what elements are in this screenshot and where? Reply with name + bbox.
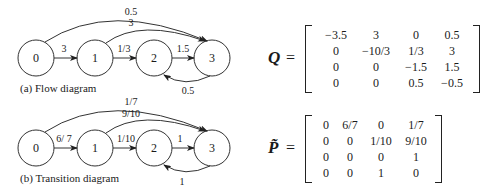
q-cell: −3.5 [317,27,355,43]
q-matrix-label: Q [268,48,280,68]
p-matrix: 0 6/7 0 1/7 0 0 1/10 9/10 0 0 0 1 0 0 1 … [305,115,442,183]
q-matrix-row: 0 −10/3 1/3 3 [317,43,469,59]
flow-edge-label-1-2: 1/3 [118,43,131,54]
q-cell: −1.5 [397,59,435,75]
q-cell: 0 [317,43,355,59]
p-cell: 1/7 [399,117,433,133]
p-cell: 0 [337,133,363,149]
q-cell: 0.5 [397,75,435,91]
q-matrix-row: 0 0 −1.5 1.5 [317,59,469,75]
q-cell: −10/3 [355,43,397,59]
flow-edge-label-1-3: 3 [129,17,134,28]
p-cell: 0 [315,165,337,181]
q-matrix-row: −3.5 3 0 0.5 [317,27,469,43]
flow-node-3-label: 3 [209,51,215,65]
p-cell: 0 [399,165,433,181]
p-cell: 1 [399,149,433,165]
trans-edge-label-2-3: 1 [178,133,183,144]
q-cell: 0 [397,27,435,43]
q-cell: 1.5 [435,59,469,75]
p-cell: 0 [315,149,337,165]
q-matrix-left-bracket [305,25,312,93]
flow-edge-label-0-3: 0.5 [125,6,138,17]
p-cell: 0 [337,149,363,165]
trans-edge-label-0-3: 1/7 [125,96,138,107]
q-cell: 3 [355,27,397,43]
trans-edge-label-1-3: 9/10 [122,108,140,119]
p-cell: 1 [363,165,399,181]
p-matrix-right-bracket [435,115,442,183]
q-matrix-row: 0 0 0.5 −0.5 [317,75,469,91]
p-matrix-row: 0 0 0 1 [315,149,433,165]
flow-edge-label-3-2: 0.5 [182,85,195,96]
flow-edge-3-2 [164,75,210,82]
q-cell: 1/3 [397,43,435,59]
p-matrix-row: 0 6/7 0 1/7 [315,117,433,133]
p-cell: 0 [315,133,337,149]
q-cell: 0 [355,75,397,91]
flow-node-2-label: 2 [151,51,157,65]
flow-edge-label-2-3: 1.5 [177,43,190,54]
p-cell: 9/10 [399,133,433,149]
trans-node-2-label: 2 [151,141,157,155]
p-cell: 1/10 [363,133,399,149]
p-matrix-row: 0 0 1/10 9/10 [315,133,433,149]
q-matrix-table: −3.5 3 0 0.5 0 −10/3 1/3 3 0 0 −1.5 1.5 … [317,27,469,91]
transition-diagram-caption: (b) Transition diagram [20,172,119,185]
q-matrix-right-bracket [473,25,480,93]
p-cell: 6/7 [337,117,363,133]
trans-node-0-label: 0 [33,141,39,155]
q-cell: 0 [317,75,355,91]
q-cell: −0.5 [435,75,469,91]
q-cell: 0 [355,59,397,75]
flow-diagram-caption: (a) Flow diagram [20,82,97,95]
trans-edge-1-3 [106,120,205,133]
trans-node-3-label: 3 [209,141,215,155]
p-cell: 0 [315,117,337,133]
p-matrix-row: 0 0 1 0 [315,165,433,181]
p-matrix-left-bracket [305,115,312,183]
flow-edge-0-3 [45,21,207,42]
p-cell: 0 [363,149,399,165]
q-cell: 0 [317,59,355,75]
trans-edge-label-0-1: 6/ 7 [56,133,71,144]
trans-edge-label-3-2: 1 [180,176,185,187]
p-cell: 0 [337,165,363,181]
q-matrix-equals: = [286,49,295,67]
flow-node-1-label: 1 [92,51,98,65]
trans-edge-label-1-2: 1/10 [117,133,135,144]
flow-edge-label-0-1: 3 [62,43,67,54]
flow-edge-1-3 [106,30,205,43]
p-cell: 0 [363,117,399,133]
flow-node-0-label: 0 [33,51,39,65]
p-matrix-equals: = [286,139,295,157]
p-matrix-label: P̃ [268,138,278,158]
q-cell: 0.5 [435,27,469,43]
trans-node-1-label: 1 [92,141,98,155]
trans-edge-3-2 [164,165,210,172]
q-matrix: −3.5 3 0 0.5 0 −10/3 1/3 3 0 0 −1.5 1.5 … [305,25,480,93]
p-matrix-table: 0 6/7 0 1/7 0 0 1/10 9/10 0 0 0 1 0 0 1 … [315,117,433,181]
q-cell: 3 [435,43,469,59]
